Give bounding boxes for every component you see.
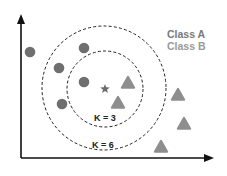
- x-axis-arrow-icon: [204, 154, 214, 162]
- k3-label: K = 3: [94, 113, 116, 123]
- class-a-circle-icon: [57, 99, 68, 110]
- knn-diagram: K = 3 K = 6 Class A Class B: [0, 0, 227, 176]
- class-b-triangle-icon: [172, 89, 184, 100]
- class-b-triangle-icon: [178, 118, 190, 129]
- y-axis-arrow-icon: [17, 14, 25, 24]
- class-a-circle-icon: [79, 77, 90, 88]
- class-a-circle-icon: [25, 47, 36, 58]
- query-point: [100, 84, 110, 93]
- class-a-circle-icon: [54, 63, 65, 74]
- legend: Class A Class B: [167, 28, 206, 52]
- class-b-triangle-icon: [122, 77, 134, 88]
- class-b-triangle-icon: [112, 97, 124, 108]
- class-a-points: [25, 43, 90, 110]
- class-b-points: [112, 77, 190, 152]
- legend-class-a: Class A: [167, 28, 206, 40]
- class-b-triangle-icon: [155, 141, 167, 152]
- k6-label: K = 6: [92, 140, 114, 150]
- legend-class-b: Class B: [167, 40, 206, 52]
- class-a-circle-icon: [79, 43, 90, 54]
- star-icon: [100, 84, 110, 93]
